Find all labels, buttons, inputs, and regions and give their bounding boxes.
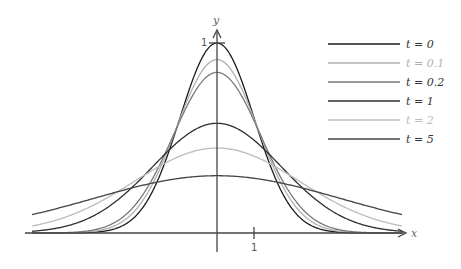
x-axis-label: x <box>411 227 418 240</box>
legend-label: t = 0.2 <box>406 76 444 89</box>
legend-item: t = 0.1 <box>328 57 444 70</box>
legend-label: t = 2 <box>406 114 434 127</box>
legend: t = 0t = 0.1t = 0.2t = 1t = 2t = 5 <box>328 38 444 146</box>
legend-label: t = 0 <box>406 38 434 51</box>
legend-label: t = 0.1 <box>406 57 444 70</box>
y-tick-label: 1 <box>201 37 207 48</box>
legend-label: t = 1 <box>406 95 434 108</box>
x-tick-label: 1 <box>251 242 257 253</box>
y-axis-label: y <box>212 14 220 27</box>
legend-item: t = 0 <box>328 38 434 51</box>
legend-label: t = 5 <box>406 133 434 146</box>
legend-item: t = 0.2 <box>328 76 444 89</box>
legend-item: t = 2 <box>328 114 434 127</box>
heat-kernel-chart: 1 1 x y t = 0t = 0.1t = 0.2t = 1t = 2t =… <box>0 0 461 269</box>
legend-item: t = 1 <box>328 95 434 108</box>
legend-item: t = 5 <box>328 133 434 146</box>
